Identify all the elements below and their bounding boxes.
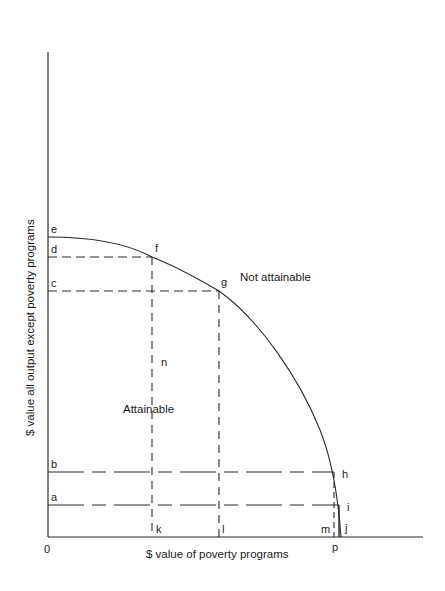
label-n: n	[161, 356, 167, 368]
label-m: m	[321, 523, 330, 535]
label-l: l	[222, 523, 224, 535]
attainable-label: Attainable	[123, 403, 174, 415]
label-c: c	[51, 277, 57, 289]
label-k: k	[156, 523, 162, 535]
label-d: d	[51, 243, 57, 255]
label-h: h	[342, 468, 348, 480]
y-axis-title: $ value all output except poverty progra…	[24, 219, 36, 436]
label-e: e	[51, 223, 57, 235]
label-p: p	[332, 541, 338, 553]
label-f: f	[155, 242, 159, 254]
label-g: g	[221, 276, 227, 288]
ppf-diagram: e d c b a f g h i j n k l m p 0 Attainab…	[0, 0, 445, 591]
label-a: a	[51, 491, 58, 503]
origin-label: 0	[44, 543, 50, 555]
not-attainable-label: Not attainable	[240, 271, 311, 283]
label-i: i	[347, 501, 349, 513]
label-b: b	[51, 458, 57, 470]
label-j: j	[344, 522, 347, 534]
x-axis-title: $ value of poverty programs	[146, 548, 289, 560]
